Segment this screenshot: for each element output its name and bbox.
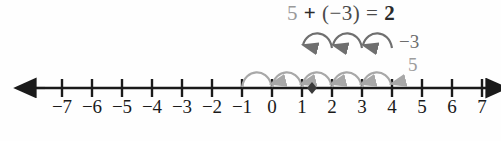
- jump-arc: [272, 72, 301, 87]
- number-line-graphic: [0, 0, 501, 141]
- jump-arc: [362, 72, 391, 87]
- upper-jump-arcs: [303, 33, 392, 48]
- jump-arc: [302, 72, 331, 87]
- result-point-marker: [307, 82, 317, 94]
- jump-arc: [242, 72, 271, 87]
- jump-arc: [303, 33, 332, 48]
- jump-arc: [363, 33, 392, 48]
- tick-label: 7: [462, 96, 501, 118]
- lower-jump-arcs: [242, 72, 391, 87]
- jump-arc: [332, 72, 361, 87]
- jump-arc: [333, 33, 362, 48]
- number-line-figure: 5 + (−3) = 2 −3 5: [0, 0, 501, 141]
